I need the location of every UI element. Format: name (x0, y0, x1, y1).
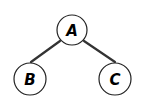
tree-diagram: A B C (0, 0, 143, 108)
node-a: A (57, 15, 87, 45)
node-b: B (14, 63, 46, 95)
node-b-label: B (24, 71, 35, 89)
edge-a-c (84, 41, 115, 62)
node-c-label: C (109, 71, 120, 89)
node-a-label: A (65, 22, 78, 40)
edge-a-b (31, 41, 60, 62)
node-c: C (99, 63, 131, 95)
